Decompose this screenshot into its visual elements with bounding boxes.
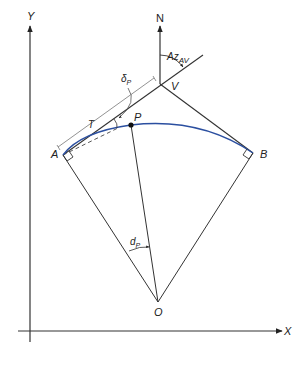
point-a-label: A bbox=[50, 148, 58, 160]
point-o-label: O bbox=[154, 306, 163, 318]
point-p-marker bbox=[128, 122, 133, 127]
central-angle-label: dP bbox=[130, 236, 141, 249]
y-axis-label: Y bbox=[27, 10, 35, 22]
radius-op bbox=[131, 125, 158, 302]
forward-tangent-line bbox=[160, 84, 253, 153]
curve-diagram: Y X N AzAV T δP dP A B V P O bbox=[0, 0, 303, 369]
deflection-arc bbox=[114, 119, 117, 128]
x-axis-label: X bbox=[283, 325, 292, 337]
tangent-label: T bbox=[88, 119, 95, 130]
point-b-label: B bbox=[260, 148, 267, 160]
point-p-label: P bbox=[134, 111, 142, 123]
radius-oa bbox=[63, 155, 158, 302]
azimuth-label: AzAV bbox=[166, 51, 190, 65]
north-label: N bbox=[156, 12, 164, 24]
chord-ap bbox=[63, 128, 118, 155]
point-v-label: V bbox=[171, 80, 180, 92]
radius-ob bbox=[158, 153, 253, 302]
deflection-label: δP bbox=[121, 73, 132, 86]
